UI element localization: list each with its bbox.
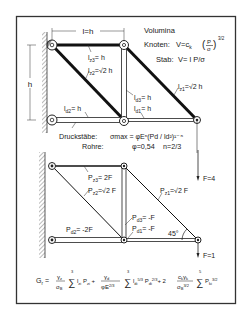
volumina-title: Volumina (144, 26, 176, 35)
member-d3 (122, 45, 127, 120)
node-icon (49, 163, 56, 170)
stab-label: Stab: (156, 55, 174, 64)
knoten-exp: 3/2 (218, 36, 225, 41)
wall-hatch-bottom (39, 152, 45, 258)
label-ld2: ld2= h (64, 105, 81, 114)
dimension-length: l=h (52, 26, 124, 40)
member-d2 (52, 118, 124, 123)
svg-text:∑: ∑ (196, 277, 203, 288)
node-icon (195, 237, 201, 243)
label-pz2: Pz2=√2 F (88, 187, 116, 196)
member-pd3 (122, 166, 126, 240)
svg-text:∑: ∑ (68, 277, 75, 288)
label-ld1: ld1= h (134, 105, 151, 114)
member-pd1 (124, 239, 198, 242)
angle-label: 45° (168, 230, 179, 237)
wall-hatch-top (42, 32, 47, 133)
label-pd2: Pd2= -2F (66, 226, 93, 235)
svg-text:ckγk: ckγk (178, 274, 188, 281)
svg-text:Gr =: Gr = (36, 277, 49, 286)
label-pd3: Pd3= -F (132, 214, 155, 223)
svg-text:lzi Pzi +: lzi Pzi + (77, 278, 95, 286)
node-icon (49, 237, 56, 244)
knoten-label: Knoten: (144, 40, 170, 49)
member-pd2 (52, 238, 124, 243)
druckstaebe-block: Druckstäbe: σmax = φEⁿ(Pd / ld²)¹⁻ⁿ Rohr… (59, 120, 197, 153)
dimension-height: h (26, 45, 36, 120)
rohre-label: Rohre: (82, 142, 104, 151)
node-icon (47, 40, 57, 50)
volumina-block: Volumina Knoten: V=ck ( P σ ) 3/2 Stab: … (144, 26, 225, 64)
svg-text:σB3/2: σB3/2 (177, 283, 190, 291)
stab-formula: V= l P/σ (178, 55, 205, 64)
svg-text:3: 3 (127, 269, 130, 274)
arrow-down-icon (197, 253, 200, 258)
paren-open-icon: ( (202, 39, 206, 50)
svg-text:σB: σB (56, 284, 63, 291)
label-ld3: ld3= h (134, 94, 151, 103)
svg-text:γd: γd (104, 274, 109, 281)
label-lz2: lz2=√2 h (88, 67, 113, 76)
druckstaebe-formula: σmax = φEⁿ(Pd / ld²)¹⁻ⁿ (110, 133, 183, 141)
dim-length-label: l=h (83, 27, 94, 36)
druckstaebe-label: Druckstäbe: (59, 132, 97, 141)
node-icon (121, 163, 127, 169)
svg-text:φE2/3: φE2/3 (101, 283, 115, 290)
knoten-frac-num: P (207, 39, 211, 45)
label-pz1: Pz1=√2 F (160, 187, 188, 196)
arrow-down-icon (197, 176, 200, 181)
paren-close-icon: ) (213, 39, 216, 50)
label-pz3: Pz3= 2F (88, 174, 112, 183)
force-top-label: F=4 (203, 175, 215, 182)
svg-text:3: 3 (71, 269, 74, 274)
total-weight-formula: Gr = γz σB ∑ 3 lzi Pzi + γd φE2/3 ∑ 3 ld… (36, 269, 218, 291)
node-icon (120, 117, 129, 126)
dim-height-label: h (28, 80, 32, 89)
svg-text:γz: γz (57, 274, 62, 281)
node-icon (120, 41, 129, 50)
svg-text:Pki3/2: Pki3/2 (205, 277, 218, 286)
bottom-truss: Pz3= 2F Pz2=√2 F Pz1=√2 F Pd3= -F Pd2= -… (39, 150, 215, 259)
rohre-n: n=2/3 (163, 142, 181, 151)
node-icon (121, 237, 127, 243)
label-pd1: Pd1= -F (132, 225, 155, 234)
node-icon (47, 115, 57, 125)
rohre-phi: φ=0,54 (132, 142, 155, 151)
truss-diagram: l=h h lz3= h lz2=√2 (0, 0, 244, 316)
knoten-frac-den: σ (207, 46, 211, 52)
knoten-formula: V=ck (176, 40, 192, 50)
force-arrow-bottom: F=1 (197, 243, 216, 259)
label-lz3: lz3= h (88, 54, 105, 63)
force-arrow-top: F=4 (197, 150, 216, 182)
svg-text:∑: ∑ (124, 277, 131, 288)
label-lz1: lz1=√2 h (178, 83, 203, 92)
force-bottom-label: F=1 (203, 252, 215, 259)
member-d1 (124, 119, 197, 122)
svg-text:ldi5/3 Pdi2/3+ 2: ldi5/3 Pdi2/3+ 2 (133, 277, 167, 286)
svg-text:5: 5 (199, 269, 202, 274)
